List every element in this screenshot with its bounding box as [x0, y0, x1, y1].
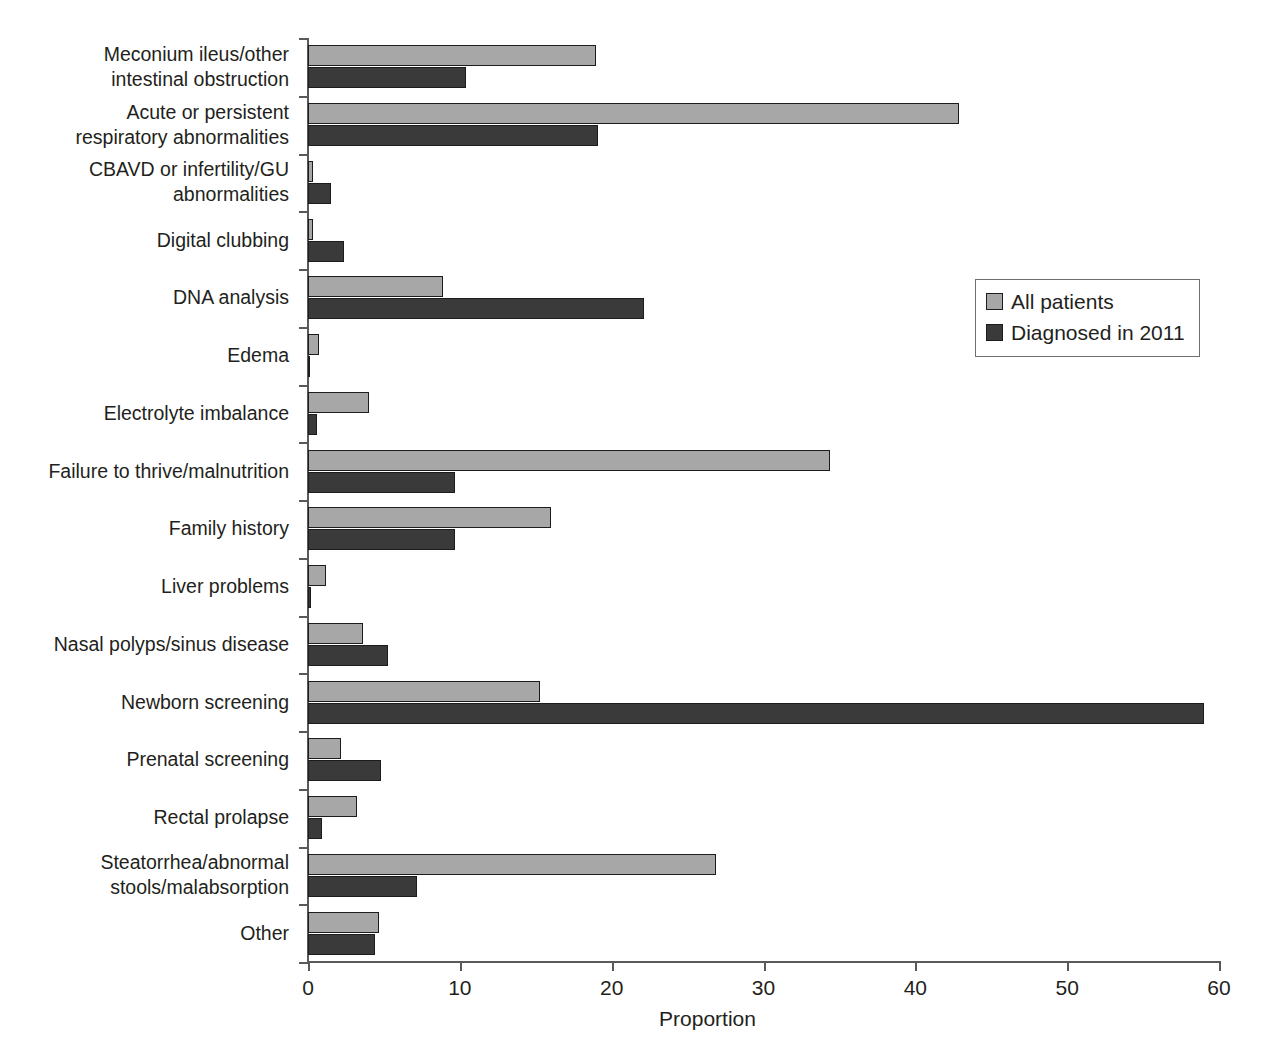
legend-swatch-icon-diagnosed-2011	[986, 324, 1003, 341]
y-axis-tick	[299, 211, 308, 213]
x-axis-title: Proportion	[0, 1007, 1270, 1031]
legend-label-all-patients: All patients	[1011, 286, 1114, 317]
bar-all-patients	[308, 796, 357, 817]
bar-diagnosed-2011	[308, 298, 644, 319]
legend-item-diagnosed-2011: Diagnosed in 2011	[986, 317, 1185, 348]
x-axis-tick	[915, 961, 917, 971]
bar-all-patients	[308, 45, 596, 66]
horizontal-bar-chart: Meconium ileus/other intestinal obstruct…	[0, 0, 1270, 1064]
category-label: Acute or persistent respiratory abnormal…	[0, 100, 297, 150]
category-label: Liver problems	[0, 574, 297, 599]
bar-diagnosed-2011	[308, 472, 455, 493]
bar-all-patients	[308, 912, 379, 933]
y-axis-tick	[299, 154, 308, 156]
bar-diagnosed-2011	[308, 876, 417, 897]
bar-all-patients	[308, 681, 540, 702]
category-label: Steatorrhea/abnormal stools/malabsorptio…	[0, 850, 297, 900]
plot-area	[308, 38, 1219, 962]
bar-all-patients	[308, 507, 551, 528]
bar-all-patients	[308, 565, 326, 586]
x-axis-tick	[612, 961, 614, 971]
x-axis-tick-label: 30	[752, 976, 775, 1000]
bar-diagnosed-2011	[308, 645, 388, 666]
category-label: Other	[0, 921, 297, 946]
x-axis-tick	[308, 961, 310, 971]
y-axis-tick	[299, 96, 308, 98]
x-axis-tick-label: 20	[600, 976, 623, 1000]
y-axis-tick	[299, 673, 308, 675]
bar-diagnosed-2011	[308, 934, 375, 955]
category-label: Digital clubbing	[0, 228, 297, 253]
bar-all-patients	[308, 450, 830, 471]
x-axis-tick-label: 60	[1207, 976, 1230, 1000]
y-axis-tick	[299, 442, 308, 444]
bar-diagnosed-2011	[308, 125, 598, 146]
bar-diagnosed-2011	[308, 529, 455, 550]
bar-diagnosed-2011	[308, 818, 322, 839]
y-axis-tick	[299, 558, 308, 560]
y-axis-tick	[299, 38, 308, 40]
bar-all-patients	[308, 334, 319, 355]
category-label: Nasal polyps/sinus disease	[0, 632, 297, 657]
y-axis-tick	[299, 962, 308, 964]
bar-diagnosed-2011	[308, 241, 344, 262]
y-axis-tick	[299, 847, 308, 849]
bar-diagnosed-2011	[308, 414, 317, 435]
category-label: Prenatal screening	[0, 747, 297, 772]
y-axis-tick	[299, 385, 308, 387]
bar-diagnosed-2011	[308, 760, 381, 781]
bar-all-patients	[308, 276, 443, 297]
legend-item-all-patients: All patients	[986, 286, 1185, 317]
bar-all-patients	[308, 392, 369, 413]
bar-diagnosed-2011	[308, 587, 311, 608]
y-axis-tick	[299, 731, 308, 733]
bar-all-patients	[308, 623, 363, 644]
category-label: Failure to thrive/malnutrition	[0, 459, 297, 484]
bar-all-patients	[308, 738, 341, 759]
y-axis-tick	[299, 789, 308, 791]
x-axis-tick-label: 40	[904, 976, 927, 1000]
bar-diagnosed-2011	[308, 356, 310, 377]
x-axis-title-text: Proportion	[659, 1007, 756, 1031]
x-axis-tick	[460, 961, 462, 971]
category-label: CBAVD or infertility/GU abnormalities	[0, 157, 297, 207]
legend: All patients Diagnosed in 2011	[975, 279, 1200, 357]
legend-label-diagnosed-2011: Diagnosed in 2011	[1011, 317, 1185, 348]
category-label: Electrolyte imbalance	[0, 401, 297, 426]
bar-diagnosed-2011	[308, 703, 1204, 724]
x-axis-tick	[764, 961, 766, 971]
bar-all-patients	[308, 161, 313, 182]
category-labels: Meconium ileus/other intestinal obstruct…	[0, 38, 297, 962]
legend-swatch-icon-all-patients	[986, 293, 1003, 310]
x-axis-tick	[1219, 961, 1221, 971]
category-label: Meconium ileus/other intestinal obstruct…	[0, 42, 297, 92]
category-label: Newborn screening	[0, 690, 297, 715]
category-label: DNA analysis	[0, 285, 297, 310]
bar-all-patients	[308, 103, 959, 124]
bar-diagnosed-2011	[308, 67, 466, 88]
y-axis-tick	[299, 616, 308, 618]
x-axis-tick-label: 0	[302, 976, 314, 1000]
category-label: Rectal prolapse	[0, 805, 297, 830]
y-axis-tick	[299, 904, 308, 906]
y-axis-tick	[299, 500, 308, 502]
bar-all-patients	[308, 219, 313, 240]
category-label: Family history	[0, 516, 297, 541]
y-axis-tick	[299, 269, 308, 271]
x-axis-tick	[1067, 961, 1069, 971]
category-label: Edema	[0, 343, 297, 368]
x-axis-tick-label: 10	[448, 976, 471, 1000]
bar-all-patients	[308, 854, 716, 875]
y-axis-tick	[299, 327, 308, 329]
bar-diagnosed-2011	[308, 183, 331, 204]
x-axis-tick-label: 50	[1055, 976, 1078, 1000]
